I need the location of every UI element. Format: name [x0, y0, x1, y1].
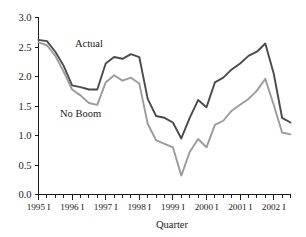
x-axis-ticks	[39, 195, 291, 201]
y-axis-tick-labels: 0.00.51.01.52.02.53.0	[18, 12, 31, 200]
x-tick-label: 2000 I	[195, 202, 219, 212]
series-annotation-no-boom: No Boom	[60, 108, 101, 119]
series-annotation-actual: Actual	[75, 38, 103, 49]
y-tick-label: 0.0	[18, 189, 31, 200]
x-axis-title: Quarter	[156, 219, 189, 230]
x-tick-label: 1997 I	[94, 202, 118, 212]
y-axis-ticks	[35, 18, 39, 195]
chart-container: 0.00.51.01.52.02.53.0 1995 I1996 I1997 I…	[0, 0, 306, 237]
y-tick-label: 2.5	[18, 42, 31, 53]
y-tick-label: 2.0	[18, 71, 31, 82]
y-tick-label: 1.0	[18, 130, 31, 141]
line-chart: 0.00.51.01.52.02.53.0 1995 I1996 I1997 I…	[0, 0, 306, 237]
y-tick-label: 1.5	[18, 101, 31, 112]
x-tick-label: 1996 I	[60, 202, 84, 212]
x-tick-label: 2001 I	[228, 202, 252, 212]
x-tick-label: 1998 I	[127, 202, 151, 212]
y-tick-label: 3.0	[18, 12, 31, 23]
x-tick-label: 2002 I	[262, 202, 286, 212]
x-tick-label: 1995 I	[27, 202, 51, 212]
x-axis-tick-labels: 1995 I1996 I1997 I1998 I1999 I2000 I2001…	[27, 202, 286, 212]
x-tick-label: 1999 I	[161, 202, 185, 212]
series-line-actual	[39, 40, 291, 139]
y-tick-label: 0.5	[18, 160, 31, 171]
